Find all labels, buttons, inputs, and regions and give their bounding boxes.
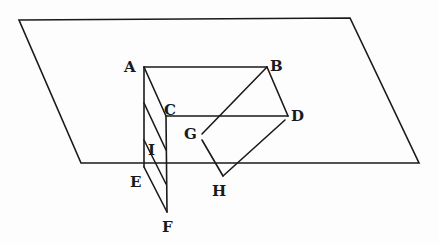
label-e: E: [130, 173, 141, 191]
label-c: C: [164, 101, 176, 119]
edge-gh: [202, 140, 223, 176]
geometry-diagram: A B C D G I E H F: [0, 0, 439, 244]
label-h: H: [212, 182, 226, 200]
label-i: I: [148, 141, 155, 159]
base-plane: [19, 18, 419, 163]
label-a: A: [123, 58, 136, 76]
label-f: F: [162, 218, 173, 236]
label-g: G: [184, 125, 197, 143]
label-d: D: [291, 107, 304, 125]
label-b: B: [270, 57, 283, 75]
edge-cf: [166, 116, 167, 212]
edge-hd: [223, 120, 285, 176]
edge-ef: [144, 167, 167, 212]
edge-bg: [202, 67, 267, 134]
